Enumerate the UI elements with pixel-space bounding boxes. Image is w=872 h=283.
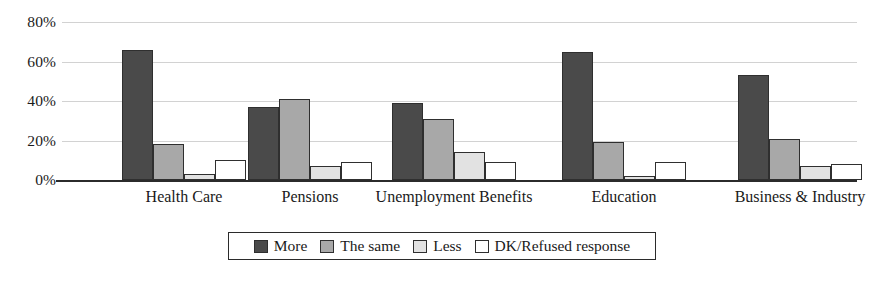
bar bbox=[423, 119, 454, 180]
bar bbox=[769, 139, 800, 180]
legend-label: More bbox=[274, 238, 308, 254]
x-axis-category-label: Unemployment Benefits bbox=[376, 186, 533, 208]
x-axis-category-label: Education bbox=[592, 186, 657, 208]
bar bbox=[153, 144, 184, 180]
bar bbox=[279, 99, 310, 180]
bar bbox=[215, 160, 246, 180]
bar bbox=[800, 166, 831, 180]
x-axis-category-label: Business & Industry bbox=[735, 186, 866, 208]
legend-swatch-icon bbox=[254, 240, 268, 253]
x-axis-baseline bbox=[56, 180, 857, 182]
legend-item[interactable]: DK/Refused response bbox=[475, 238, 631, 254]
legend-label: Less bbox=[433, 238, 461, 254]
x-axis-category-labels: Health CarePensionsUnemployment Benefits… bbox=[62, 186, 857, 212]
legend-swatch-icon bbox=[413, 240, 427, 253]
bar-group bbox=[248, 22, 372, 180]
y-axis-tick-label: 0% bbox=[35, 172, 56, 188]
legend-item[interactable]: More bbox=[254, 238, 308, 254]
y-axis-tick-label: 60% bbox=[27, 54, 56, 70]
grouped-bar-chart: 0%20%40%60%80% Health CarePensionsUnempl… bbox=[0, 0, 872, 283]
bar-group bbox=[562, 22, 686, 180]
bar bbox=[122, 50, 153, 180]
legend-swatch-icon bbox=[320, 240, 334, 253]
bar-group bbox=[738, 22, 862, 180]
bar bbox=[655, 162, 686, 180]
y-axis-tick-label: 40% bbox=[27, 93, 56, 109]
legend-item[interactable]: Less bbox=[413, 238, 461, 254]
bar bbox=[392, 103, 423, 180]
chart-legend: MoreThe sameLessDK/Refused response bbox=[228, 232, 656, 260]
y-axis-tick-label: 80% bbox=[27, 14, 56, 30]
legend-swatch-icon bbox=[475, 240, 489, 253]
bar bbox=[593, 142, 624, 180]
bar-group bbox=[122, 22, 246, 180]
plot-area bbox=[62, 22, 857, 180]
legend-label: The same bbox=[340, 238, 400, 254]
bar bbox=[310, 166, 341, 180]
bar bbox=[562, 52, 593, 180]
bar-group bbox=[392, 22, 516, 180]
x-axis-category-label: Pensions bbox=[282, 186, 339, 208]
bar bbox=[341, 162, 372, 180]
bar bbox=[831, 164, 862, 180]
bar bbox=[624, 176, 655, 180]
bar bbox=[738, 75, 769, 180]
x-axis-category-label: Health Care bbox=[146, 186, 223, 208]
y-axis: 0%20%40%60%80% bbox=[0, 22, 56, 180]
y-axis-tick-label: 20% bbox=[27, 133, 56, 149]
bar bbox=[485, 162, 516, 180]
legend-item[interactable]: The same bbox=[320, 238, 400, 254]
axis-stub bbox=[56, 180, 62, 182]
bar bbox=[184, 174, 215, 180]
bar bbox=[454, 152, 485, 180]
bar bbox=[248, 107, 279, 180]
bar-groups bbox=[62, 22, 857, 180]
legend-label: DK/Refused response bbox=[495, 238, 631, 254]
